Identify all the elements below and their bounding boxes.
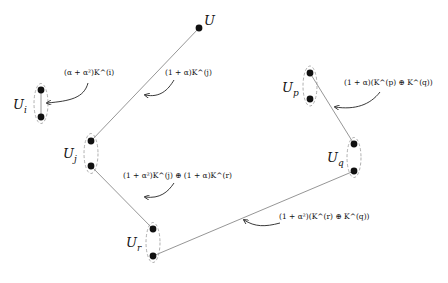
edge-label-ui: (α + α²)K^(i) bbox=[64, 69, 114, 77]
node-ui-dot-top bbox=[38, 87, 45, 94]
node-uq-dot-top bbox=[351, 141, 358, 148]
node-up-dot-top bbox=[307, 70, 314, 77]
arrow-u-uj-label bbox=[145, 80, 174, 96]
node-label-ur: Ur bbox=[126, 236, 141, 253]
node-up-dot-bottom bbox=[307, 96, 314, 103]
arrow-uj-ur-label bbox=[145, 183, 174, 197]
edge-label-uj-ur: (1 + α²)K^(j) ⊕ (1 + α)K^(r) bbox=[123, 172, 232, 180]
arrow-up-uq-label bbox=[335, 92, 380, 108]
edge-u-uj bbox=[91, 28, 199, 141]
arrow-ur-uq-label bbox=[244, 220, 280, 226]
node-u-dot bbox=[196, 25, 203, 32]
node-label-uj: Uj bbox=[63, 147, 77, 164]
arrow-ui-label bbox=[47, 83, 88, 103]
node-ur-dot-top bbox=[150, 226, 157, 233]
node-uq-dot-bottom bbox=[351, 168, 358, 175]
edge-label-up-uq: (1 + α)(K^(p) ⊕ K^(q)) bbox=[344, 79, 433, 87]
edge-label-u-uj: (1 + α)K^(j) bbox=[165, 69, 212, 77]
node-ur-dot-bottom bbox=[150, 253, 157, 260]
node-label-u: U bbox=[204, 14, 215, 27]
node-label-ui: Ui bbox=[13, 98, 27, 115]
node-label-uq: Uq bbox=[327, 151, 344, 168]
diagram-canvas bbox=[0, 0, 448, 283]
node-ui-dot-bottom bbox=[38, 114, 45, 121]
node-uj-dot-bottom bbox=[88, 163, 95, 170]
edge-label-ur-uq: (1 + α²)(K^(r) ⊕ K^(q)) bbox=[279, 213, 370, 221]
node-uj-dot-top bbox=[88, 138, 95, 145]
node-label-up: Up bbox=[282, 81, 299, 98]
